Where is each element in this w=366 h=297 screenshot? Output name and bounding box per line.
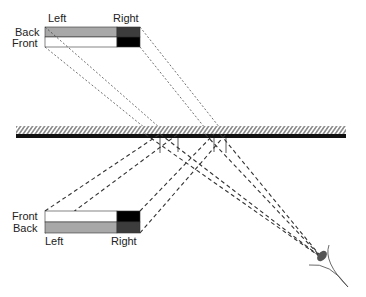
bottom-front-left-cell xyxy=(45,211,117,222)
top-front-right-cell xyxy=(117,37,140,47)
reflected-rays xyxy=(145,134,322,258)
bottom-back-right-cell xyxy=(117,222,140,233)
top-label-right: Right xyxy=(113,12,139,24)
bottom-label-left: Left xyxy=(45,235,63,247)
bottom-row-front: Front xyxy=(12,210,38,222)
eye-icon xyxy=(309,245,348,287)
mirror-reflection-diagram: Left Right Back Front xyxy=(0,0,366,297)
top-row-front: Front xyxy=(12,37,38,49)
object-box: Left Right Back Front xyxy=(12,12,140,49)
mirror xyxy=(16,126,346,138)
bottom-front-right-cell xyxy=(117,211,140,222)
bottom-back-left-cell xyxy=(45,222,117,233)
top-back-right-cell xyxy=(117,27,140,37)
bottom-row-back: Back xyxy=(13,222,38,234)
mirror-surface xyxy=(16,134,346,138)
top-back-left-cell xyxy=(45,27,117,37)
top-label-left: Left xyxy=(48,12,66,24)
image-box: Front Back Left Right xyxy=(12,210,140,247)
mirror-hatching xyxy=(16,126,346,134)
bottom-label-right: Right xyxy=(111,235,137,247)
top-front-left-cell xyxy=(45,37,117,47)
